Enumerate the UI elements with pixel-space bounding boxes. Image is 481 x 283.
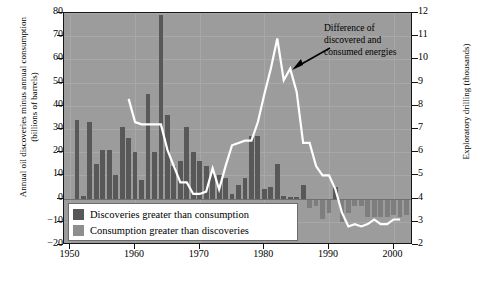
annotation-label: Difference of discovered and consumed en… (324, 22, 428, 58)
legend-swatch-consumption (73, 225, 84, 236)
y-tick-left-0: 0 (37, 191, 63, 202)
y-tick-left-80: 80 (37, 5, 63, 16)
y-tick-right-12: 12 (418, 5, 444, 16)
y-axis-right-title: Exploratory drilling (thousands) (461, 0, 472, 207)
y-tick-right-7: 7 (418, 121, 444, 132)
x-tickmark (328, 244, 329, 249)
y-tickmark-left (57, 244, 63, 245)
annotation-line-1: Difference of (324, 22, 428, 34)
y-tick-left-50: 50 (37, 75, 63, 86)
y-tick-left--20: −20 (37, 237, 63, 248)
x-tickmark (263, 244, 264, 249)
y-tickmark-right (412, 105, 418, 106)
x-tick-1960: 1960 (109, 248, 159, 259)
chart-legend: Discoveries greater than consumption Con… (68, 203, 298, 241)
y-tickmark-right (412, 58, 418, 59)
y-tick-right-4: 4 (418, 191, 444, 202)
chart-figure: Annual oil discoveries minus annual cons… (0, 0, 481, 283)
legend-swatch-discoveries (73, 209, 84, 220)
y-tickmark-right (412, 128, 418, 129)
y-tickmark-right (412, 198, 418, 199)
y-tick-left-10: 10 (37, 167, 63, 178)
y-tick-right-8: 8 (418, 98, 444, 109)
y-tick-left-20: 20 (37, 144, 63, 155)
legend-item-consumption: Consumption greater than discoveries (69, 222, 297, 238)
y-tick-left-30: 30 (37, 121, 63, 132)
y-tick-left--10: −10 (37, 214, 63, 225)
annotation-line-3: consumed energies (324, 46, 428, 58)
y-tickmark-right (412, 174, 418, 175)
y-tickmark-right (412, 82, 418, 83)
x-tick-1970: 1970 (174, 248, 224, 259)
y-tick-left-70: 70 (37, 28, 63, 39)
x-tick-2000: 2000 (368, 248, 418, 259)
y-tick-right-6: 6 (418, 144, 444, 155)
y-tickmark-right (412, 244, 418, 245)
legend-item-discoveries: Discoveries greater than consumption (69, 206, 297, 222)
y-tick-right-9: 9 (418, 75, 444, 86)
legend-label-consumption: Consumption greater than discoveries (90, 225, 249, 236)
y-tickmark-right (412, 12, 418, 13)
x-tickmark (393, 244, 394, 249)
y-tickmark-right (412, 221, 418, 222)
y-tick-right-3: 3 (418, 214, 444, 225)
x-tick-1980: 1980 (238, 248, 288, 259)
x-tickmark (199, 244, 200, 249)
x-tickmark (134, 244, 135, 249)
x-tick-1950: 1950 (44, 248, 94, 259)
y-tick-right-2: 2 (418, 237, 444, 248)
annotation-line-2: discovered and (324, 34, 428, 46)
x-tickmark (69, 244, 70, 249)
y-tickmark-right (412, 151, 418, 152)
y-tick-left-60: 60 (37, 51, 63, 62)
y-tick-right-5: 5 (418, 167, 444, 178)
legend-label-discoveries: Discoveries greater than consumption (90, 209, 249, 220)
y-tick-left-40: 40 (37, 98, 63, 109)
x-tick-1990: 1990 (303, 248, 353, 259)
